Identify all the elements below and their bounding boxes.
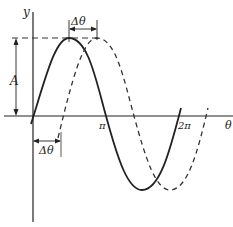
bottom-delta-arrowhead-left [33,139,39,144]
bottom-delta-arrowhead-right [55,139,61,144]
bottom-delta-theta-label: Δθ [38,144,54,157]
top-delta-theta-label: Δθ [70,15,86,28]
solid-sine-curve [31,38,181,190]
x-axis-label: θ [225,119,232,132]
dashed-sine-curve [58,38,208,190]
amplitude-arrowhead-bottom [14,109,19,116]
pi-tick-label: π [98,120,106,131]
amplitude-arrowhead-top [14,38,19,45]
top-delta-arrowhead-right [91,27,97,32]
sine-phase-diagram: A Δθ Δθ y θ π 2π [0,0,233,227]
two-pi-tick-label: 2π [177,120,191,131]
y-axis-label: y [22,5,30,19]
amplitude-label: A [9,74,19,88]
